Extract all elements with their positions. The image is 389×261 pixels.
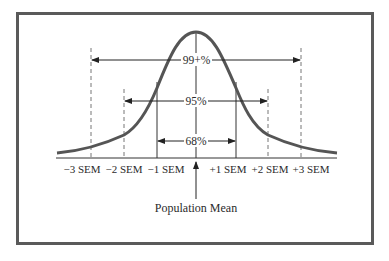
- interval-99-label: 99+%: [183, 54, 211, 66]
- population-mean-label: Population Mean: [155, 201, 237, 215]
- tick-plus1: +1 SEM: [209, 163, 246, 175]
- tick-minus2: −2 SEM: [105, 163, 142, 175]
- interval-68-label: 68%: [185, 135, 207, 147]
- tick-minus3: −3 SEM: [63, 163, 100, 175]
- normal-distribution-diagram: 99+% 95% 68% −3 SEM −2 SEM −1 SEM +1 SEM…: [0, 0, 389, 261]
- tick-plus2: +2 SEM: [251, 163, 288, 175]
- axis-tick-labels: −3 SEM −2 SEM −1 SEM +1 SEM +2 SEM +3 SE…: [63, 163, 329, 175]
- interval-68: 68%: [158, 134, 235, 147]
- interval-95: 95%: [125, 94, 267, 107]
- interval-95-label: 95%: [185, 95, 207, 107]
- tick-minus1: −1 SEM: [147, 163, 184, 175]
- interval-99: 99+%: [92, 53, 300, 66]
- tick-plus3: +3 SEM: [292, 163, 329, 175]
